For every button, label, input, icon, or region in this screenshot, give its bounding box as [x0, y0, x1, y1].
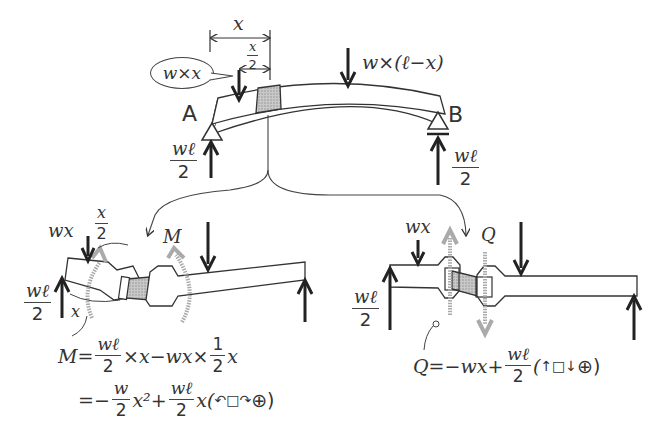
moment-beam-group — [55, 222, 312, 336]
sagging-moment-icon: ↶□↷ — [214, 392, 251, 408]
frac-num: wℓ — [169, 380, 195, 397]
frac-num: 1 — [210, 336, 225, 353]
frac-num: wℓ — [452, 147, 479, 165]
frac-num: x — [247, 40, 258, 53]
reaction-a-label: wℓ 2 — [170, 140, 197, 181]
reaction-b-label: wℓ 2 — [452, 147, 479, 188]
shear-equation: Q=−wx+ wℓ 2 ( ↑□↓ ⊕) — [413, 346, 600, 385]
frac-num: wℓ — [170, 140, 197, 158]
support-a-label: A — [182, 103, 197, 125]
eq-frac-1: w 2 — [112, 380, 131, 419]
frac-den: 2 — [360, 311, 371, 329]
shear-right-piece — [477, 266, 637, 306]
frac-den: 2 — [178, 163, 189, 181]
top-beam-element — [256, 85, 281, 113]
eq-tail: x — [227, 345, 238, 367]
eq-sign-positive: ⊕) — [251, 389, 274, 411]
moment-label: M — [163, 228, 181, 246]
eq-frac-2: wℓ 2 — [169, 380, 195, 419]
frac-den: 2 — [212, 358, 223, 375]
frac-bar — [247, 55, 258, 56]
frac-den: 2 — [103, 358, 114, 375]
eq-frac-2: 1 2 — [210, 336, 225, 375]
moment-half-label: x 2 — [95, 205, 108, 242]
dim-x-half-label: x 2 — [247, 40, 258, 71]
moment-load-label: wx — [48, 222, 74, 240]
frac-num: wℓ — [505, 346, 531, 363]
frac-den: 2 — [513, 368, 524, 385]
frac-den: 2 — [116, 402, 127, 419]
shear-label: Q — [481, 226, 496, 244]
eq-lhs: Q=−wx+ — [413, 355, 503, 377]
frac-num: wℓ — [95, 336, 121, 353]
frac-den: 2 — [32, 305, 43, 323]
shear-reaction-label: wℓ 2 — [352, 288, 379, 329]
eq-lhs: =− — [78, 389, 110, 411]
moment-x-label: x — [71, 304, 80, 320]
eq-tail: x( — [196, 389, 214, 411]
eq-frac: wℓ 2 — [505, 346, 531, 385]
shear-beam-group — [383, 222, 641, 350]
moment-equation-line1: M= wℓ 2 ×x−wx× 1 2 x — [58, 336, 238, 375]
positive-shear-icon: ↑□↓ — [540, 358, 577, 374]
load-right-label: w×(ℓ−x) — [362, 53, 444, 72]
shear-load-label: wx — [405, 218, 431, 236]
frac-num: w — [112, 380, 131, 397]
half-arc — [98, 243, 128, 248]
support-b-label: B — [448, 104, 463, 126]
load-left-bubble: w×x — [150, 57, 214, 89]
eq-mid: x²+ — [132, 389, 166, 411]
frac-num: x — [95, 205, 108, 221]
frac-num: wℓ — [352, 288, 379, 306]
moment-equation-line2: =− w 2 x²+ wℓ 2 x( ↶□↷ ⊕) — [78, 380, 275, 419]
frac-num: wℓ — [24, 282, 51, 300]
eq-frac-1: wℓ 2 — [95, 336, 121, 375]
frac-den: 2 — [460, 170, 471, 188]
dim-x-label: x — [233, 14, 244, 33]
frac-den: 2 — [96, 226, 106, 242]
eq-sign-positive: ⊕) — [577, 355, 600, 377]
moment-reaction-label: wℓ 2 — [24, 282, 51, 323]
eq-lhs: M= — [58, 345, 93, 367]
moment-right-piece — [146, 262, 305, 306]
eq-tail: ( — [533, 355, 540, 377]
frac-den: 2 — [249, 58, 257, 71]
load-left-label: w×x — [163, 63, 201, 83]
brace-right — [268, 170, 466, 235]
eq-mid: ×x−wx× — [123, 345, 208, 367]
frac-den: 2 — [176, 402, 187, 419]
